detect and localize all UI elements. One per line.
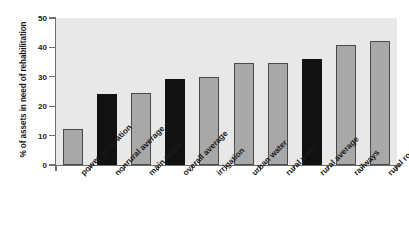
- x-tick-label: rural roads: [386, 171, 392, 177]
- y-tick-label: 40: [3, 43, 47, 52]
- y-tick-label: 20: [3, 102, 47, 111]
- x-tick-label: overall average: [181, 171, 187, 177]
- bar-rural-roads: [370, 41, 390, 165]
- x-axis-labels: power generationnonrural averagemain roa…: [56, 165, 397, 234]
- x-tick-label: main roads: [147, 171, 153, 177]
- y-tick-mark: [49, 106, 55, 107]
- x-tick-label: nonrural average: [113, 171, 119, 177]
- x-tick-label: rural average: [318, 171, 324, 177]
- y-tick-label: 50: [3, 14, 47, 23]
- y-tick-label: 10: [3, 131, 47, 140]
- x-tick-label: rural water: [284, 171, 290, 177]
- x-tick-label: irrigation: [215, 171, 221, 177]
- y-tick-label: 30: [3, 72, 47, 81]
- y-tick-mark: [49, 17, 55, 18]
- y-tick-label: 0: [3, 161, 47, 170]
- y-tick-mark: [49, 164, 55, 165]
- bar-chart: % of assets in need of rehabilitation 01…: [0, 0, 409, 234]
- x-tick-label: railways: [352, 171, 358, 177]
- y-axis-title: % of assets in need of rehabilitation: [19, 15, 28, 165]
- x-tick-label: urban water: [250, 171, 256, 177]
- x-tick-label: power generation: [79, 171, 85, 177]
- bar-power-generation: [63, 129, 83, 165]
- y-tick-mark: [49, 76, 55, 77]
- y-tick-mark: [49, 135, 55, 136]
- y-tick-mark: [49, 47, 55, 48]
